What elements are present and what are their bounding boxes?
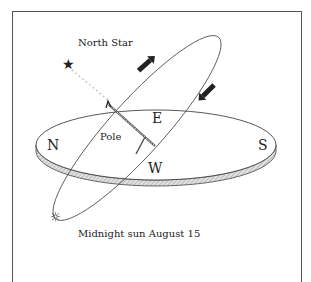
north-star-label: North Star [78,37,133,48]
east-label: E [152,110,162,126]
north-star-icon: ★ [62,56,75,72]
south-label: S [258,137,268,153]
sun-icon: ☼ [50,210,61,224]
pole-axis-dotted [72,70,108,100]
west-label: W [148,160,162,176]
caption: Midnight sun August 15 [78,228,200,239]
north-label: N [47,137,59,153]
arrow-down-icon [195,81,218,104]
arrow-up-icon [135,52,158,74]
pole-label: Pole [100,131,121,142]
